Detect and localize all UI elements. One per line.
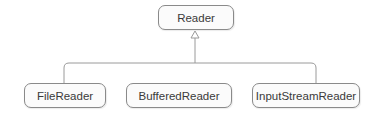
node-label: FileReader (37, 90, 93, 102)
node-filereader: FileReader (24, 83, 106, 108)
inheritance-arrow-icon (191, 31, 199, 38)
node-reader: Reader (158, 5, 234, 30)
node-inputstreamreader: InputStreamReader (252, 83, 360, 108)
class-diagram: Reader FileReader BufferedReader InputSt… (0, 0, 383, 116)
node-bufferedreader: BufferedReader (126, 83, 232, 108)
node-label: Reader (177, 12, 215, 24)
node-label: BufferedReader (139, 90, 220, 102)
node-label: InputStreamReader (256, 90, 356, 102)
bus-line (64, 63, 316, 83)
